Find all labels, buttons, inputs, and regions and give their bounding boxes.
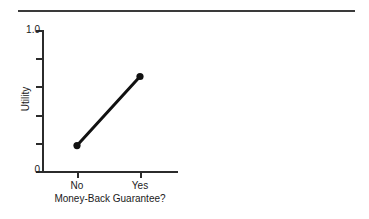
data-series-layer xyxy=(0,0,369,219)
figure-container: 1.0 0 No Yes Utility Money-Back Guarante… xyxy=(0,0,369,219)
data-point-no xyxy=(73,142,80,149)
data-point-yes xyxy=(136,73,143,80)
plot-area: 1.0 0 No Yes Utility Money-Back Guarante… xyxy=(0,0,369,219)
utility-line xyxy=(77,77,140,146)
